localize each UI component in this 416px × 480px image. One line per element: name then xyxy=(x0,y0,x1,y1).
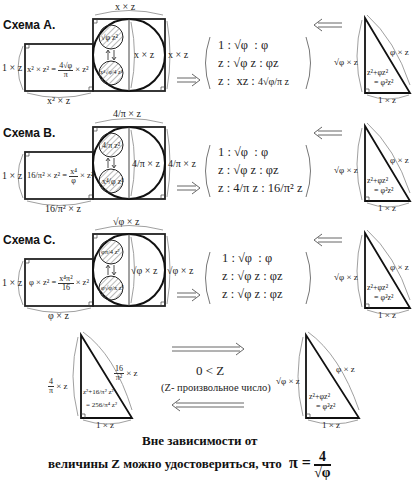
bottom-right-triangle-inner-1: z²+φz² xyxy=(309,392,330,401)
scheme-a-circle-label: x × z xyxy=(134,49,154,60)
scheme-a-triangle-hyp-label: φ × z xyxy=(390,47,409,57)
scheme-a-small-circle-top: √φ z² xyxy=(101,33,118,42)
scheme-a-small-circle-bottom: x⁴√φ/4 z² xyxy=(100,69,122,75)
bottom-left-triangle-bottom-label: 1 × z xyxy=(96,420,114,430)
scheme-c-triangle-left-label: √φ × z xyxy=(334,272,358,282)
footer-line-1: Вне зависимости от xyxy=(142,433,257,449)
scheme-a-ratio-matrix: 1 : √φ : φ z : √φ z : φz z : xz : 4√φ/π … xyxy=(218,36,289,91)
scheme-b-triangle-inner-2: = φ²z² xyxy=(374,186,393,195)
scheme-b-triangle-bottom-label: 1 × z xyxy=(378,203,396,213)
formula-left: x² × z² = xyxy=(27,64,56,74)
scheme-a-right-label: x × z xyxy=(168,49,188,60)
scheme-a-triangle-left-label: √φ × z xyxy=(334,57,358,67)
scheme-c-triangle-inner-1: z²+φz² xyxy=(367,283,388,292)
scheme-b-title: Схема B. xyxy=(3,126,55,140)
scheme-c-left-label: 1 × z xyxy=(2,277,22,288)
scheme-b-left-label: 1 × z xyxy=(2,170,22,181)
scheme-b-triangle-inner-1: z²+φz² xyxy=(367,176,388,185)
formula-right: × z² xyxy=(75,64,88,74)
scheme-a-title: Схема A. xyxy=(3,18,55,32)
bottom-left-triangle-hyp-label: 16π² × z xyxy=(114,365,138,382)
bottom-right-triangle-hyp-label: φ × z xyxy=(336,364,355,374)
scheme-a-top-label: x × z xyxy=(115,1,135,12)
scheme-c-ratio-matrix: 1 : √φ : φ z : √φ z : φz z : √φ z : φz xyxy=(222,249,283,303)
scheme-b-triangle-hyp-label: φ × z xyxy=(390,155,409,165)
bottom-right-triangle-inner-2: = φ²z² xyxy=(316,402,335,411)
bottom-left-triangle-inner-1: z²+16/π² z² xyxy=(83,388,114,396)
formula-fraction: x⁴π²16 xyxy=(58,275,73,292)
scheme-c-small-circle-bottom: φ√φ/x z² xyxy=(101,284,124,291)
formula-fraction: x⁴φ xyxy=(69,168,78,185)
condition-text: 0 < Z xyxy=(196,363,224,379)
scheme-a-left-label: 1 × z xyxy=(2,62,22,73)
matrix-row: z : 4/π z : 16/π² z xyxy=(218,179,302,197)
bottom-right-triangle-bottom-label: 1 × z xyxy=(322,420,340,430)
scheme-c-circle-label: √φ × z xyxy=(131,265,157,276)
bottom-left-triangle-inner-2: = 256/π⁴ z² xyxy=(86,401,117,409)
matrix-row: 1 : √φ : φ xyxy=(218,143,302,161)
scheme-a-triangle-bottom-label: 1 × z xyxy=(378,95,396,105)
scheme-c-triangle-bottom-label: 1 × z xyxy=(378,310,396,320)
pi-fraction: 4√φ xyxy=(314,450,330,480)
formula-left: 16/π² × z² = xyxy=(27,170,67,180)
scheme-c-top-label: √φ × z xyxy=(113,216,139,227)
scheme-b-ratio-matrix: 1 : √φ : φ z : √φ z : φz z : 4/π z : 16/… xyxy=(218,143,302,197)
scheme-b-circle-label: 4/π × z xyxy=(132,158,160,169)
matrix-row: z : √φ z : φz xyxy=(218,161,302,179)
matrix-row: 1 : √φ : φ xyxy=(218,36,289,54)
note-text: (Z- произвольное число) xyxy=(161,382,271,393)
scheme-c-title: Схема C. xyxy=(3,233,55,247)
scheme-c-triangle-inner-2: = φ²z² xyxy=(374,293,393,302)
bottom-left-triangle-left-label: 4π × z xyxy=(48,378,68,395)
formula-left: φ × z² = xyxy=(29,277,56,287)
formula-right: × z² xyxy=(80,170,93,180)
scheme-b-right-label: 4/π × z xyxy=(168,158,196,169)
matrix-row: z : √φ z : φz xyxy=(218,54,289,72)
matrix-row: z : xz : 4√φ/π z xyxy=(218,72,289,91)
matrix-row: 1 : √φ : φ xyxy=(222,249,283,267)
scheme-a-rect-formula: x² × z² = 4√φπ × z² xyxy=(27,62,89,79)
pi-equation: π = xyxy=(289,454,311,471)
scheme-c-bottom-label: φ × z xyxy=(48,310,69,321)
scheme-a-bottom-label: x² × z xyxy=(47,95,70,106)
scheme-b-top-label: 4/π × z xyxy=(113,108,141,119)
scheme-b-triangle-left-label: √φ × z xyxy=(334,165,358,175)
scheme-c-rect-formula: φ × z² = x⁴π²16 × z² xyxy=(29,275,89,292)
scheme-c-small-circle-top: φπ/4 z² xyxy=(101,248,120,255)
scheme-b-small-circle-bottom: x⁴/φ z² xyxy=(102,177,124,186)
footer-line-2: величины Z можно удостовериться, что π =… xyxy=(48,450,331,480)
scheme-b-small-circle-top: 4/π z² xyxy=(102,141,120,150)
scheme-a-triangle-inner-2: = φ²z² xyxy=(374,78,393,87)
formula-right: × z² xyxy=(76,277,89,287)
scheme-c-triangle-hyp-label: φ × z xyxy=(390,262,409,272)
scheme-b-bottom-label: 16/π² × z xyxy=(45,203,81,214)
matrix-row: z : √φ z : φz xyxy=(222,267,283,285)
scheme-a-triangle-inner-1: z²+φz² xyxy=(367,68,388,77)
bottom-right-triangle-left-label: √φ × z xyxy=(276,376,300,386)
footer-line-2-text: величины Z можно удостовериться, что xyxy=(48,456,282,471)
formula-fraction: 4√φπ xyxy=(58,62,73,79)
scheme-b-rect-formula: 16/π² × z² = x⁴φ × z² xyxy=(27,168,93,185)
scheme-c-right-label: √φ × z xyxy=(167,265,193,276)
matrix-row: z : √φ z : φz xyxy=(222,285,283,303)
